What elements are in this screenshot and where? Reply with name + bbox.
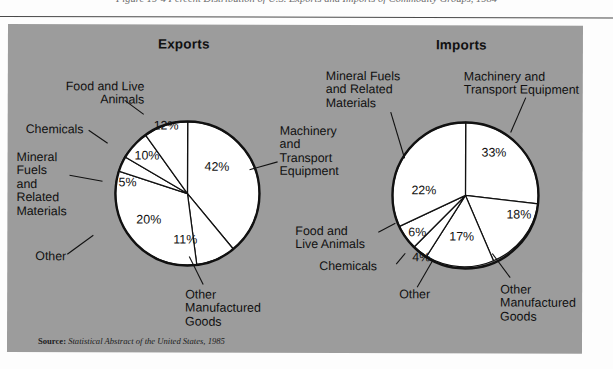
figure-page: Figure 19-4 Percent Distribution of U.S.… <box>0 0 613 369</box>
source-label: Source: <box>38 336 66 346</box>
imports-leader-lines <box>7 24 583 354</box>
source-title: Statistical Abstract of the United State… <box>68 336 225 346</box>
horizontal-rule <box>0 16 613 18</box>
figure-source: Source: Statistical Abstract of the Unit… <box>38 336 225 346</box>
figure-panel: Exports <box>7 24 583 354</box>
figure-caption: Figure 19-4 Percent Distribution of U.S.… <box>0 0 613 4</box>
